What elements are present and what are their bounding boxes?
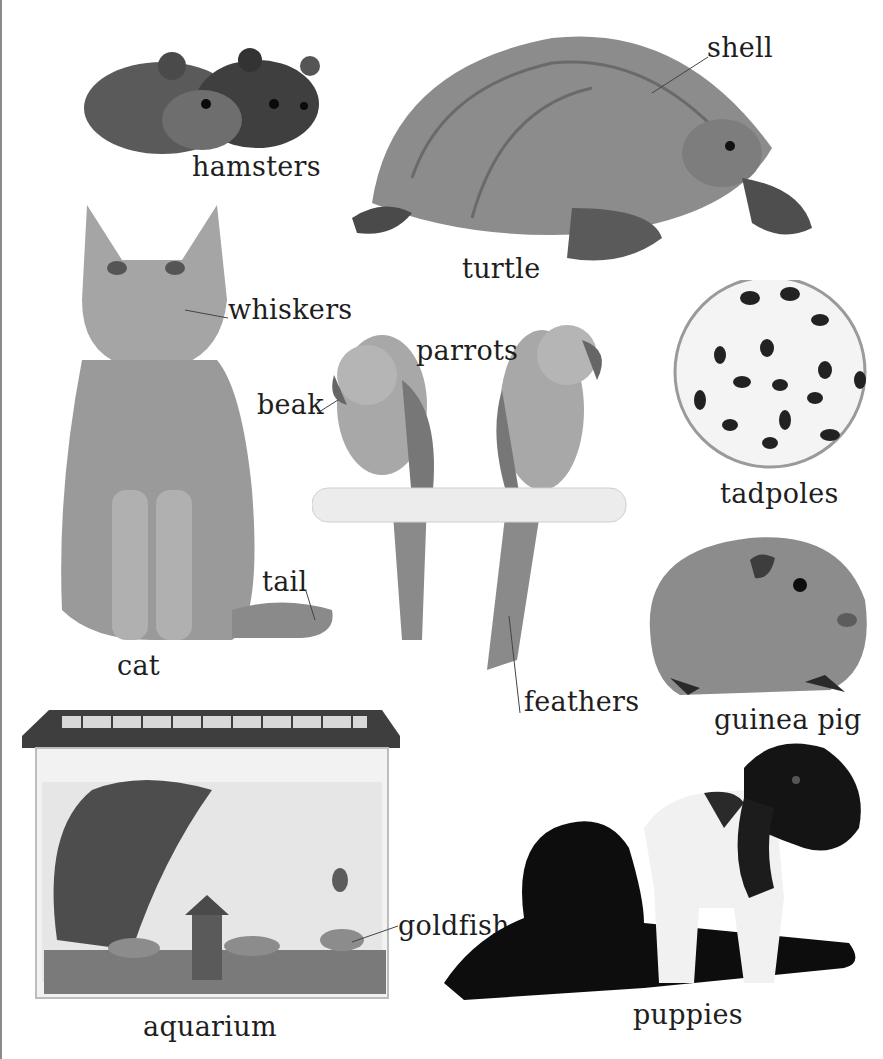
turtle-photo xyxy=(352,28,822,268)
aquarium-photo xyxy=(22,710,407,1005)
puppies-photo xyxy=(444,738,869,1000)
tail-label: tail xyxy=(262,568,307,595)
parrots-label: parrots xyxy=(416,337,518,364)
cat-label: cat xyxy=(117,652,160,679)
feathers-label: feathers xyxy=(524,688,639,715)
whiskers-label: whiskers xyxy=(228,296,353,323)
feathers-leader-line xyxy=(508,615,522,715)
aquarium-label: aquarium xyxy=(143,1013,277,1040)
guinea-pig-label: guinea pig xyxy=(714,706,862,733)
hamsters-label: hamsters xyxy=(192,153,321,180)
goldfish-leader-line xyxy=(350,924,400,944)
whiskers-leader-line xyxy=(185,308,229,320)
turtle-label: turtle xyxy=(462,255,540,282)
beak-label: beak xyxy=(257,391,324,418)
beak-leader-line xyxy=(318,398,340,414)
tadpoles-dish-photo xyxy=(670,280,870,480)
tadpoles-label: tadpoles xyxy=(720,480,839,507)
parrots-photo xyxy=(312,320,632,680)
guinea-pig-photo xyxy=(640,530,875,702)
hamsters-photo xyxy=(82,38,326,158)
page-edge-border xyxy=(0,0,2,1059)
puppies-label: puppies xyxy=(633,1001,743,1028)
shell-leader-line xyxy=(650,55,710,95)
shell-label: shell xyxy=(707,34,773,61)
